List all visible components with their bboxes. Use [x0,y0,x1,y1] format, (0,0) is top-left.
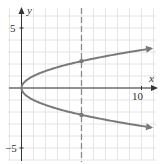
x-tick-10: 10 [132,90,144,102]
y-axis-label: y [26,4,32,16]
point-marker [79,113,83,117]
curve-upper-branch [22,49,152,88]
y-tick-5: 5 [10,22,16,34]
x-axis-arrow-icon [151,85,158,91]
y-tick-neg5: −5 [5,142,17,154]
parabola-chart: y x 5 −5 10 [0,0,161,164]
x-axis-label: x [148,72,154,84]
point-marker [79,59,83,63]
axes [9,7,158,161]
y-axis-arrow-icon [19,7,25,14]
